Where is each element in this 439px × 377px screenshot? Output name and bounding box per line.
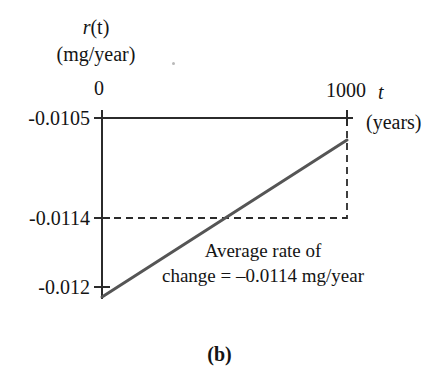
x-tick-label-1000: 1000	[306, 80, 386, 100]
figure-panel-b: r(t) (mg/year) 0 1000 t (years) -0.0105 …	[0, 0, 439, 377]
y-axis-label-function: r(t)	[0, 17, 192, 37]
figure-caption: (b)	[0, 344, 439, 364]
x-tick-label-0: 0	[64, 78, 134, 98]
y-tick-label-mid: -0.0114	[0, 208, 90, 228]
scan-speck-artifact	[172, 62, 175, 65]
y-axis-label-function-arg: (t)	[90, 16, 109, 38]
x-axis-label-variable: t	[378, 82, 384, 102]
y-axis-label-units: (mg/year)	[0, 44, 192, 64]
y-tick-label-bottom: -0.012	[0, 277, 90, 297]
annotation-line-2: change = –0.0114 mg/year	[122, 266, 404, 285]
annotation-line-1: Average rate of	[148, 241, 378, 260]
y-tick-label-top: -0.0105	[0, 108, 90, 128]
x-axis-label-units: (years)	[366, 112, 422, 132]
